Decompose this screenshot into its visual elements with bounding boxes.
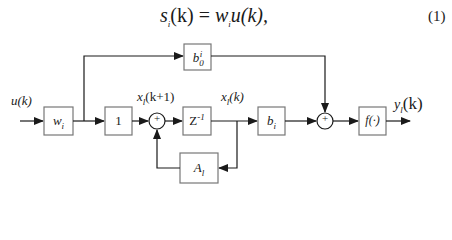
b0-block-label: b0i xyxy=(184,49,211,68)
x-next-arg: (k+1) xyxy=(145,89,174,104)
x-next-label: xl(k+1) xyxy=(137,89,174,107)
activation-label: f(·) xyxy=(359,113,386,128)
feedback-branch xyxy=(219,121,237,168)
x-curr-label: xl(k) xyxy=(221,89,244,107)
x-curr-arg: (k) xyxy=(229,89,243,104)
b0-sup: i xyxy=(200,49,203,59)
b-sub: i xyxy=(273,121,276,131)
sum1-symbol: + xyxy=(149,112,165,124)
A-main: A xyxy=(194,160,202,175)
A-sub: l xyxy=(202,168,205,178)
y-arg: (k) xyxy=(403,94,423,113)
w-block-label: wi xyxy=(44,113,73,131)
sum2-symbol: + xyxy=(317,112,333,124)
unit-gain-label: 1 xyxy=(105,113,132,129)
b-block-label: bi xyxy=(258,113,285,131)
w-sub: i xyxy=(62,121,65,131)
w-main: w xyxy=(53,113,62,128)
output-label: yl(k) xyxy=(394,94,423,115)
input-label: u(k) xyxy=(11,93,32,109)
delay-label: Z-1 xyxy=(183,112,211,129)
A-block-label: Al xyxy=(180,160,218,178)
z-sup: -1 xyxy=(197,112,205,122)
b0-sub: 0 xyxy=(199,58,204,68)
